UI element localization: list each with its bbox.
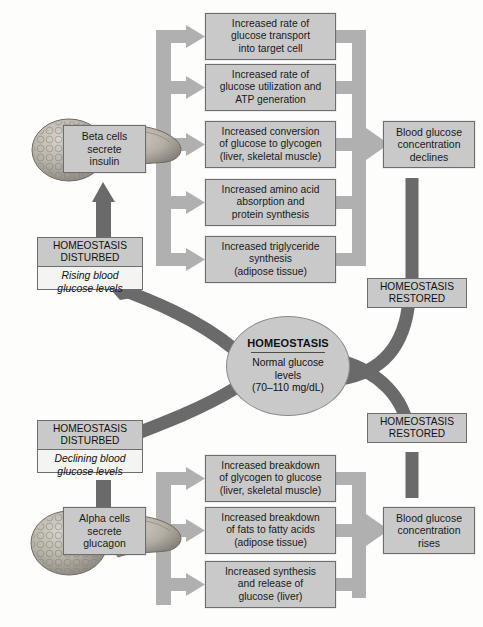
process-box-insulin-4: Increased amino acid absorption and prot… (205, 179, 336, 226)
process-line-3: into target cell (231, 43, 310, 55)
process-line-2: of glycogen to glucose (219, 472, 321, 484)
upper-collection-arrows (335, 30, 389, 266)
homeostasis-disturbed-lower: HOMEOSTASIS DISTURBED Declining blood gl… (37, 420, 143, 473)
disturbed-body-lower: Declining blood glucose levels (38, 450, 142, 480)
homeostasis-line-1: Normal glucose (252, 357, 324, 369)
disturbed-header-line-2: DISTURBED (38, 435, 142, 447)
process-line-1: Increased breakdown (219, 460, 321, 472)
alpha-cells-box: Alpha cells secrete glucagon (63, 507, 146, 555)
process-line-3: (adipose tissue) (221, 537, 319, 549)
process-box-insulin-5: Increased triglyceride synthesis (adipos… (205, 236, 336, 283)
process-line-1: Increased conversion (219, 126, 321, 138)
result-line-3: rises (396, 537, 462, 549)
blood-glucose-rises-box: Blood glucose concentration rises (383, 507, 475, 554)
disturbed-header-line-1: HOMEOSTASIS (38, 423, 142, 435)
process-box-glucagon-2: Increased breakdown of fats to fatty aci… (205, 507, 336, 554)
arrow-up-to-beta-cells (92, 182, 115, 238)
result-line-1: Blood glucose (396, 512, 462, 524)
alpha-cells-line-3: glucagon (79, 537, 130, 549)
process-line-1: Increased synthesis (225, 566, 316, 578)
beta-cells-box: Beta cells secrete insulin (63, 125, 146, 173)
disturbed-body-line-2: glucose levels (38, 283, 142, 295)
process-line-3: protein synthesis (222, 209, 320, 221)
process-line-2: absorption and (222, 196, 320, 208)
process-line-1: Increased triglyceride (222, 241, 320, 253)
process-line-2: glucose utilization and (220, 81, 321, 93)
disturbed-header-lower: HOMEOSTASIS DISTURBED (38, 421, 142, 450)
process-box-insulin-1: Increased rate of glucose transport into… (205, 13, 336, 60)
process-line-3: ATP generation (220, 94, 321, 106)
homeostasis-heading: HOMEOSTASIS (247, 337, 329, 349)
beta-cells-line-1: Beta cells (82, 130, 128, 142)
process-line-2: synthesis (222, 253, 320, 265)
disturbed-body-line-1: Declining blood (38, 453, 142, 465)
process-line-1: Increased rate of (220, 69, 321, 81)
lower-collection-arrows (335, 472, 389, 598)
homeostasis-restored-lower: HOMEOSTASIS RESTORED (367, 413, 467, 443)
homeostasis-line-3: (70–110 mg/dL) (252, 382, 324, 394)
process-line-1: Increased breakdown (221, 512, 319, 524)
alpha-cells-line-2: secrete (79, 525, 130, 537)
process-box-insulin-2: Increased rate of glucose utilization an… (205, 64, 336, 111)
process-box-glucagon-3: Increased synthesis and release of gluco… (205, 561, 336, 608)
process-line-2: and release of (225, 578, 316, 590)
restored-line-2: RESTORED (380, 428, 454, 440)
disturbed-header-line-2: DISTURBED (38, 252, 142, 264)
homeostasis-line-2: levels (252, 370, 324, 382)
restored-line-1: HOMEOSTASIS (380, 281, 454, 293)
result-line-1: Blood glucose (396, 126, 462, 138)
homeostasis-restored-upper: HOMEOSTASIS RESTORED (367, 278, 467, 308)
restored-line-1: HOMEOSTASIS (380, 416, 454, 428)
process-line-1: Increased amino acid (222, 184, 320, 196)
blood-glucose-declines-box: Blood glucose concentration declines (383, 121, 475, 168)
disturbed-header-upper: HOMEOSTASIS DISTURBED (38, 238, 142, 267)
disturbed-body-line-1: Rising blood (38, 270, 142, 282)
homeostasis-disturbed-upper: HOMEOSTASIS DISTURBED Rising blood gluco… (37, 237, 143, 290)
process-line-2: of fats to fatty acids (221, 524, 319, 536)
process-line-3: (liver, skeletal muscle) (219, 151, 321, 163)
diagram-canvas: Increased rate of glucose transport into… (0, 0, 483, 627)
result-line-2: concentration (396, 524, 462, 536)
process-line-1: Increased rate of (231, 18, 310, 30)
beta-cells-line-2: secrete (82, 143, 128, 155)
beta-cells-line-3: insulin (82, 155, 128, 167)
disturbed-header-line-1: HOMEOSTASIS (38, 240, 142, 252)
arrow-oval-to-disturbed-upper (118, 288, 234, 349)
homeostasis-center: HOMEOSTASIS Normal glucose levels (70–11… (226, 316, 350, 416)
process-line-2: glucose transport (231, 30, 310, 42)
process-line-3: (liver, skeletal muscle) (219, 485, 321, 497)
disturbed-body-line-2: glucose levels (38, 466, 142, 478)
process-line-3: glucose (liver) (225, 591, 316, 603)
process-box-glucagon-1: Increased breakdown of glycogen to gluco… (205, 455, 336, 502)
result-line-3: declines (396, 151, 462, 163)
result-line-2: concentration (396, 138, 462, 150)
process-line-2: of glucose to glycogen (219, 138, 321, 150)
restored-line-2: RESTORED (380, 293, 454, 305)
process-line-3: (adipose tissue) (222, 266, 320, 278)
alpha-cells-line-1: Alpha cells (79, 512, 130, 524)
homeostasis-divider (251, 352, 325, 353)
disturbed-body-upper: Rising blood glucose levels (38, 267, 142, 297)
process-box-insulin-3: Increased conversion of glucose to glyco… (205, 121, 336, 168)
